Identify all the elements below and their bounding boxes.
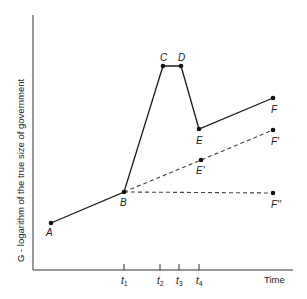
point-c	[161, 64, 166, 69]
label-c: C	[160, 52, 168, 63]
point-f-double-prime	[271, 191, 276, 196]
growth-of-government-diagram: t1 t2 t3 t4 Time G - logarithm of the tr…	[0, 0, 307, 299]
label-a: A	[45, 227, 53, 238]
x-axis-title: Time	[264, 274, 285, 285]
label-f: F	[271, 104, 278, 115]
label-e: E	[196, 135, 203, 146]
actual-path-line	[51, 66, 273, 223]
y-axis-title: G - logarithm of the true size of govern…	[15, 78, 26, 262]
point-d	[179, 64, 184, 69]
label-e-prime: E'	[196, 165, 206, 176]
point-f-prime	[271, 128, 276, 133]
point-f	[271, 96, 276, 101]
tick-label-t4: t4	[196, 275, 203, 287]
point-b	[122, 190, 127, 195]
point-e-prime	[199, 158, 204, 163]
tick-label-t3: t3	[176, 275, 183, 287]
point-a	[49, 221, 54, 226]
label-d: D	[178, 52, 185, 63]
constant-path-line	[124, 192, 273, 193]
tick-label-t1: t1	[121, 275, 128, 287]
point-e	[197, 127, 202, 132]
label-f-prime: F'	[271, 136, 280, 147]
label-f-double-prime: F''	[271, 199, 282, 210]
label-b: B	[120, 197, 127, 208]
tick-label-t2: t2	[157, 275, 164, 287]
